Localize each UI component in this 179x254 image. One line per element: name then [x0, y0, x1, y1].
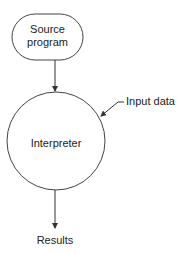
interpreter-label: Interpreter	[6, 137, 106, 150]
source-line2: program	[12, 36, 83, 49]
source-line1: Source	[12, 23, 83, 36]
source-program-label: Source program	[12, 23, 83, 49]
arrow-input-to-interpreter	[101, 102, 124, 116]
input-data-label: Input data	[126, 95, 175, 108]
results-label: Results	[5, 234, 105, 247]
